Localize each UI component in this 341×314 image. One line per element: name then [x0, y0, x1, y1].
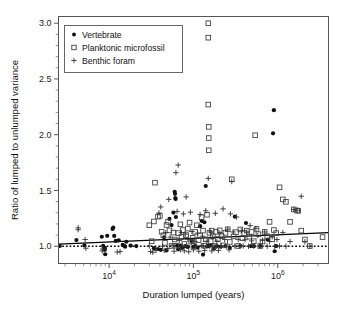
data-point: [201, 228, 206, 233]
series-vertebrate: [58, 108, 279, 257]
data-point: [163, 241, 168, 246]
data-point: [299, 228, 304, 233]
data-point: [105, 234, 109, 238]
data-point: [206, 21, 211, 26]
data-point: [158, 204, 163, 209]
y-tick-label: 2.5: [39, 74, 52, 84]
data-point: [186, 249, 191, 254]
data-point: [197, 212, 202, 217]
data-point: [112, 234, 116, 238]
data-point: [206, 148, 211, 153]
x-tick-label: 105: [187, 269, 201, 281]
x-tick-label: 106: [271, 269, 285, 281]
data-point: [188, 210, 193, 215]
data-point: [82, 237, 87, 242]
data-point: [183, 194, 188, 199]
data-point: [287, 239, 292, 244]
series-benthic-foram: [75, 162, 312, 255]
data-point: [244, 221, 248, 225]
data-point: [167, 217, 171, 221]
data-point: [174, 197, 178, 201]
data-point: [74, 238, 78, 242]
data-point: [124, 240, 128, 244]
data-point: [111, 225, 115, 229]
data-point: [198, 233, 203, 238]
data-point: [100, 235, 104, 239]
data-point: [186, 226, 191, 231]
data-point: [156, 210, 161, 215]
data-point: [206, 125, 211, 130]
legend-label: Benthic foram: [82, 56, 135, 66]
data-point: [171, 249, 176, 254]
y-tick-label: 1.5: [39, 186, 52, 196]
scatter-plot-figure: 1.01.52.02.53.0104105106VertebratePlankt…: [0, 0, 341, 314]
data-point: [164, 223, 169, 228]
data-point: [117, 249, 122, 254]
data-point: [277, 185, 282, 190]
data-point: [267, 220, 272, 225]
data-point: [175, 162, 180, 167]
data-point: [187, 220, 192, 225]
data-point: [272, 108, 276, 112]
data-point: [181, 211, 186, 216]
data-point: [147, 223, 152, 228]
data-point: [206, 35, 211, 40]
data-point: [228, 211, 233, 216]
data-point: [147, 243, 152, 248]
data-point: [206, 136, 211, 141]
data-point: [277, 243, 282, 248]
data-point: [123, 245, 127, 249]
y-axis-title: Ratio of lumped to unlumped variance: [9, 60, 20, 220]
data-point: [274, 237, 279, 242]
legend: VertebratePlanktonic microfossilBenthic …: [65, 26, 183, 73]
data-point: [195, 230, 200, 235]
data-point: [202, 220, 206, 224]
data-point: [206, 176, 211, 181]
y-tick-label: 1.0: [39, 241, 52, 251]
data-point: [153, 180, 158, 185]
data-point: [283, 244, 288, 249]
data-point: [273, 249, 277, 253]
legend-label: Vertebrate: [82, 30, 122, 40]
data-point: [129, 243, 133, 247]
data-point: [173, 170, 178, 175]
plot-canvas: 1.01.52.02.53.0104105106VertebratePlankt…: [0, 0, 341, 314]
legend-marker-vertebrate: [72, 33, 76, 37]
data-point: [103, 252, 107, 256]
data-point: [202, 248, 207, 253]
data-point: [227, 240, 232, 245]
legend-label: Planktonic microfossil: [82, 43, 165, 53]
data-point: [204, 184, 208, 188]
data-point: [213, 211, 218, 216]
data-point: [249, 230, 254, 235]
data-point: [178, 222, 183, 227]
data-point: [253, 133, 258, 138]
x-axis-title: Duration lumped (years): [143, 289, 245, 300]
data-point: [174, 215, 178, 219]
data-point: [299, 194, 304, 199]
x-tick-label: 104: [102, 269, 116, 281]
data-point: [166, 197, 171, 202]
data-point: [173, 192, 177, 196]
data-point: [271, 131, 275, 135]
data-point: [214, 238, 219, 243]
data-point: [117, 238, 121, 242]
data-point: [220, 206, 225, 211]
y-tick-label: 3.0: [39, 18, 52, 28]
data-point: [288, 220, 293, 225]
data-point: [264, 244, 269, 249]
data-point: [239, 228, 244, 233]
data-point: [320, 235, 325, 240]
data-point: [247, 223, 252, 228]
data-point: [206, 102, 211, 107]
y-tick-label: 2.0: [39, 130, 52, 140]
data-point: [254, 227, 259, 232]
data-point: [134, 244, 138, 248]
data-point: [247, 234, 252, 239]
data-point: [152, 219, 157, 224]
